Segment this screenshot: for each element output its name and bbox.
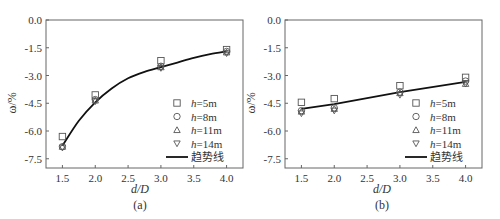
y-tick-label: -6.0 (264, 125, 282, 137)
y-tick-label: -7.5 (25, 153, 43, 165)
legend-label: 趋势线 (191, 150, 224, 163)
legend-label: 趋势线 (430, 150, 463, 163)
panel-b: 0.0-1.5-3.0-4.5-6.0-7.51.52.02.53.03.54.… (244, 14, 482, 212)
legend-label: h=5m (191, 97, 217, 109)
square-marker (298, 99, 304, 105)
x-tick-label: 2.0 (88, 172, 102, 184)
panel-label: (b) (375, 198, 389, 212)
x-tick-label: 1.5 (295, 172, 309, 184)
x-tick-label: 3.5 (187, 172, 201, 184)
y-axis-label: ω/% (5, 92, 19, 113)
x-axis-label: d/D (131, 182, 149, 196)
y-tick-label: -4.5 (25, 97, 43, 109)
legend-triangle-up-icon (174, 127, 180, 133)
x-tick-label: 2.0 (327, 172, 341, 184)
legend-circle-icon (413, 113, 419, 119)
y-tick-label: -7.5 (264, 153, 282, 165)
square-marker (331, 95, 337, 101)
panel-label: (a) (133, 198, 146, 212)
legend-label: h=14m (191, 138, 223, 150)
legend-triangle-up-icon (413, 127, 419, 133)
legend-label: h=11m (430, 124, 461, 136)
square-marker (397, 82, 403, 88)
y-tick-label: -4.5 (264, 97, 282, 109)
y-tick-label: -6.0 (25, 125, 43, 137)
square-marker (59, 133, 65, 139)
figure: 0.0-1.5-3.0-4.5-6.0-7.51.52.02.53.03.54.… (0, 0, 500, 219)
legend: h=5mh=8mh=11mh=14m趋势线 (405, 97, 463, 163)
legend-label: h=8m (191, 111, 217, 123)
legend-label: h=14m (430, 138, 462, 150)
y-tick-label: 0.0 (28, 14, 42, 26)
x-tick-label: 3.0 (393, 172, 407, 184)
legend-square-icon (413, 100, 419, 106)
legend-label: h=5m (430, 97, 456, 109)
legend-triangle-down-icon (413, 141, 419, 147)
x-tick-label: 1.5 (56, 172, 70, 184)
x-axis-label: d/D (373, 182, 391, 196)
legend-triangle-down-icon (174, 141, 180, 147)
legend: h=5mh=8mh=11mh=14m趋势线 (166, 97, 224, 163)
legend-label: h=11m (191, 124, 222, 136)
y-tick-label: 0.0 (267, 14, 281, 26)
y-tick-label: -3.0 (264, 70, 282, 82)
legend-square-icon (174, 100, 180, 106)
panel-a: 0.0-1.5-3.0-4.5-6.0-7.51.52.02.53.03.54.… (5, 14, 243, 212)
x-tick-label: 3.5 (426, 172, 440, 184)
y-tick-label: -1.5 (25, 42, 43, 54)
square-marker (462, 74, 468, 80)
y-axis-label: ω/% (244, 92, 258, 113)
x-tick-label: 4.0 (459, 172, 473, 184)
x-tick-label: 4.0 (220, 172, 234, 184)
y-tick-label: -1.5 (264, 42, 282, 54)
x-tick-label: 3.0 (154, 172, 168, 184)
y-tick-label: -3.0 (25, 70, 43, 82)
legend-circle-icon (174, 113, 180, 119)
legend-label: h=8m (430, 111, 456, 123)
